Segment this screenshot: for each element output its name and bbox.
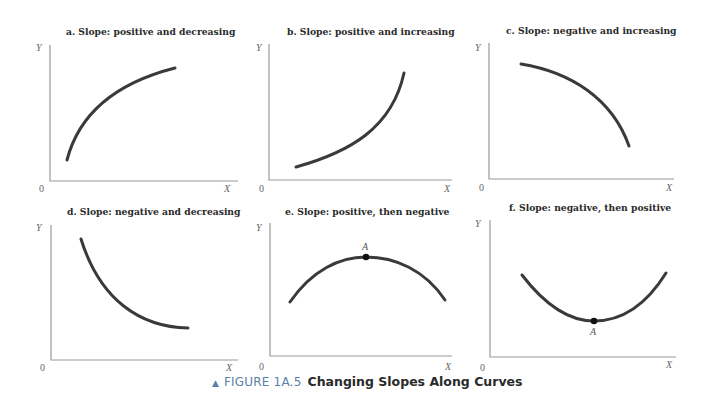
panel-title-c: c. Slope: negative and increasing <box>506 25 677 36</box>
axes <box>489 43 674 179</box>
triangle-up-icon: ▲ <box>212 378 219 388</box>
curve-u-shape <box>522 273 666 321</box>
origin-label: 0 <box>40 362 45 373</box>
point-label-a: A <box>589 326 597 337</box>
origin-label: 0 <box>479 182 484 193</box>
panel-b: b. Slope: positive and increasing Y 0 X <box>256 26 455 194</box>
point-label-a: A <box>361 241 369 252</box>
x-axis-label: X <box>225 362 233 373</box>
axes <box>270 223 452 356</box>
curve-concave-increasing <box>67 68 175 160</box>
panel-d: d. Slope: negative and decreasing Y 0 X <box>36 206 241 373</box>
axes <box>50 45 238 181</box>
panel-e: e. Slope: positive, then negative Y 0 X … <box>256 206 452 372</box>
panel-c: c. Slope: negative and increasing Y 0 X <box>475 25 677 193</box>
maximum-point-marker <box>363 254 370 261</box>
minimum-point-marker <box>591 318 598 325</box>
y-axis-label: Y <box>36 222 43 233</box>
figure-canvas: a. Slope: positive and decreasing Y 0 X … <box>0 0 709 398</box>
axes <box>51 225 238 360</box>
y-axis-label: Y <box>36 42 43 53</box>
panel-title-d: d. Slope: negative and decreasing <box>67 206 241 217</box>
curve-concave-decreasing <box>521 64 629 146</box>
axes <box>490 220 676 357</box>
origin-label: 0 <box>39 183 44 194</box>
curve-inverted-u <box>290 257 445 302</box>
origin-label: 0 <box>259 183 264 194</box>
figure-number: FIGURE 1A.5 <box>224 375 302 389</box>
origin-label: 0 <box>480 362 485 373</box>
y-axis-label: Y <box>256 42 263 53</box>
x-axis-label: X <box>665 359 673 370</box>
panel-title-f: f. Slope: negative, then positive <box>509 202 671 213</box>
origin-label: 0 <box>259 361 264 372</box>
x-axis-label: X <box>444 361 452 372</box>
axes <box>269 44 452 180</box>
y-axis-label: Y <box>475 218 482 229</box>
y-axis-label: Y <box>256 222 263 233</box>
x-axis-label: X <box>223 183 231 194</box>
figure-caption: ▲FIGURE 1A.5Changing Slopes Along Curves <box>212 374 522 389</box>
panel-title-a: a. Slope: positive and decreasing <box>66 26 236 37</box>
x-axis-label: X <box>665 182 673 193</box>
panel-f: f. Slope: negative, then positive Y 0 X … <box>475 202 676 373</box>
panel-title-e: e. Slope: positive, then negative <box>285 206 450 217</box>
panel-title-b: b. Slope: positive and increasing <box>287 26 455 37</box>
figure-title: Changing Slopes Along Curves <box>307 374 522 389</box>
panel-a: a. Slope: positive and decreasing Y 0 X <box>36 26 238 194</box>
x-axis-label: X <box>443 183 451 194</box>
curve-convex-increasing <box>296 73 404 167</box>
y-axis-label: Y <box>475 42 482 53</box>
curve-convex-decreasing <box>81 239 188 328</box>
